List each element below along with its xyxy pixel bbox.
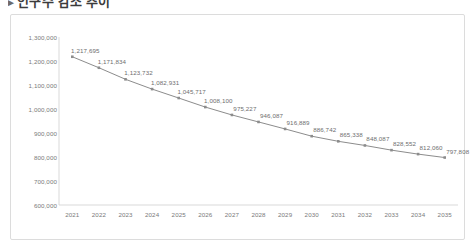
data-point-label: 1,123,732 [124,69,152,76]
bullet-icon: ▸ [8,0,14,9]
data-point-label: 848,087 [366,135,389,142]
data-point-label: 1,045,717 [177,88,205,95]
data-point-label: 1,217,695 [71,46,99,53]
data-point-label: 916,889 [287,118,310,125]
page-title-text: 인구수 감소 추이 [17,0,110,9]
data-point-label: 1,171,834 [98,57,126,64]
data-point-label: 865,338 [340,131,363,138]
data-point-label: 1,008,100 [204,97,232,104]
data-point-labels: 1,217,6951,171,8341,123,7321,082,9311,04… [11,15,464,239]
data-point-label: 946,087 [260,111,283,118]
data-point-label: 975,227 [233,104,256,111]
data-point-label: 828,552 [393,140,416,147]
data-point-label: 1,082,931 [151,79,179,86]
data-point-label: 886,742 [313,126,336,133]
data-point-label: 812,060 [420,144,443,151]
data-point-label: 797,808 [446,147,469,154]
line-chart-plot: 1,300,0001,200,0001,100,0001,000,000900,… [11,15,464,239]
page-title: ▸인구수 감소 추이 [8,0,110,11]
chart-card: 1,300,0001,200,0001,100,0001,000,000900,… [10,14,465,240]
